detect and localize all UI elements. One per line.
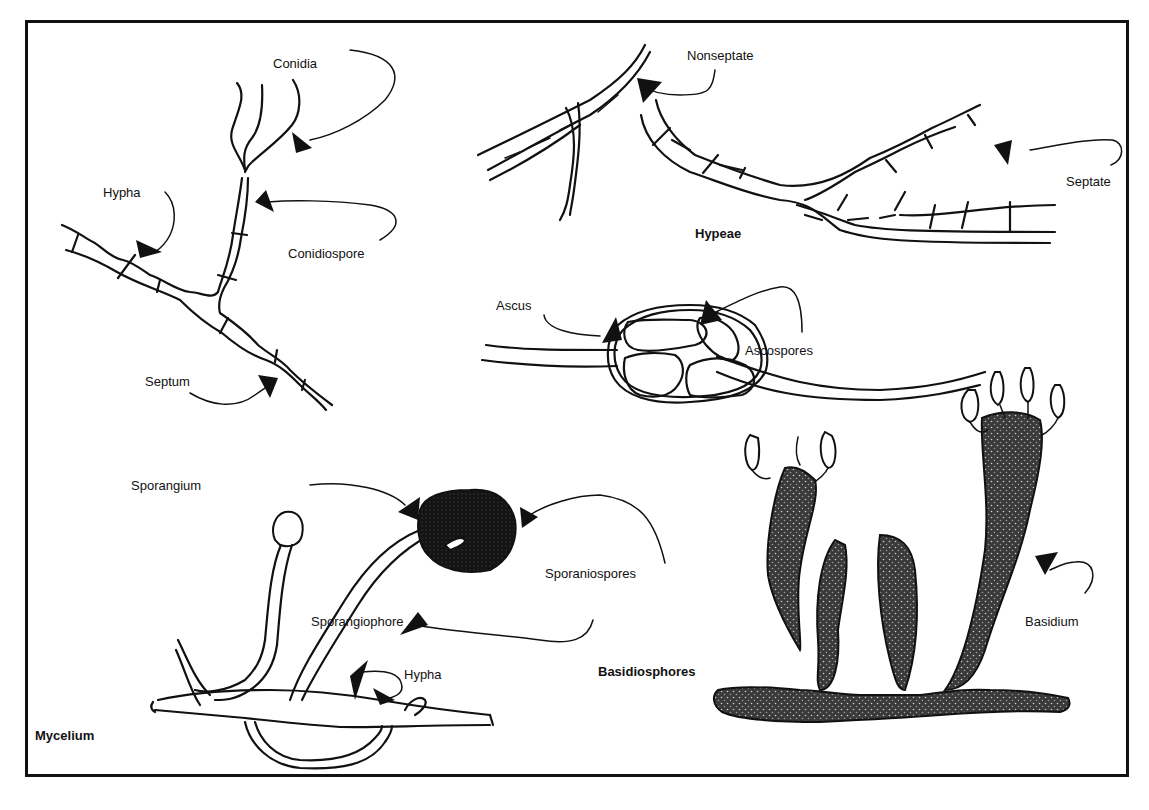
basidium-structure: [714, 368, 1070, 722]
label-septum: Septum: [145, 374, 190, 389]
sporangium-arrowhead: [398, 497, 420, 520]
sporaniospores-leader-line: [530, 495, 665, 563]
conidiospore-leader-line: [268, 201, 396, 240]
ascus-arrowhead: [602, 317, 622, 343]
sporangium-body: [418, 490, 516, 572]
label-sporangium: Sporangium: [131, 478, 201, 493]
conidia-structure: [62, 80, 332, 410]
septum-leader-line: [190, 383, 272, 404]
hypha-leader-line: [155, 192, 174, 252]
caption-hyphae: Hypeae: [695, 226, 741, 241]
label-sporaniospores: Sporaniospores: [545, 566, 636, 581]
ascus-leader-line: [544, 315, 600, 336]
septum-arrowhead: [258, 375, 278, 398]
conidia-leader-line: [310, 50, 395, 140]
label-conidia: Conidia: [273, 56, 317, 71]
sporangiophore-leader-line: [415, 620, 593, 642]
mycelium-hypha-arrowhead-upper: [350, 660, 368, 700]
label-basidium: Basidium: [1025, 614, 1078, 629]
ascus-structure: [482, 305, 985, 403]
basidium-arrowhead: [1035, 552, 1058, 575]
sporaniospores-arrowhead: [520, 507, 538, 528]
label-septate: Septate: [1066, 174, 1111, 189]
septate-leader-line: [1030, 140, 1122, 165]
caption-basidiosphores: Basidiosphores: [598, 664, 696, 679]
conidia-arrowhead: [292, 132, 312, 153]
caption-mycelium: Mycelium: [35, 728, 94, 743]
label-hypha-mycelium: Hypha: [404, 667, 442, 682]
sporangium-leader-line: [310, 484, 405, 505]
label-conidiospore: Conidiospore: [288, 246, 365, 261]
septate-hypha: [641, 100, 1055, 243]
label-nonseptate: Nonseptate: [687, 48, 754, 63]
fungal-structures-diagram: [0, 0, 1149, 810]
septate-arrowhead: [994, 140, 1012, 165]
label-hypha-conidia: Hypha: [103, 185, 141, 200]
label-ascospores: Ascospores: [745, 343, 813, 358]
label-ascus: Ascus: [496, 298, 531, 313]
label-sporangiophore: Sporangiophore: [311, 614, 404, 629]
nonseptate-hypha: [478, 45, 650, 220]
sporangiophore-arrowhead: [400, 612, 428, 635]
basidium-leader-line: [1050, 562, 1093, 593]
nonseptate-arrowhead: [637, 78, 662, 103]
